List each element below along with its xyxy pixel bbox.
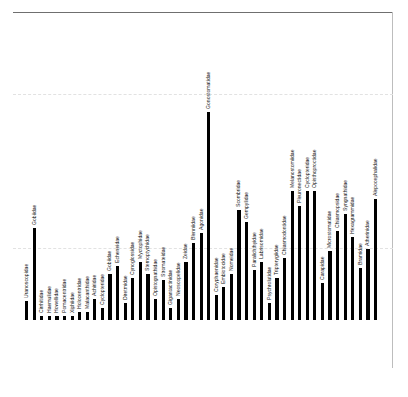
bar — [344, 214, 347, 320]
bar — [351, 237, 354, 320]
bar — [108, 274, 111, 320]
bar-group: Alepocephalidae — [371, 12, 381, 368]
bar — [328, 251, 331, 320]
bar — [169, 308, 172, 320]
bar — [192, 243, 195, 320]
bar — [146, 274, 149, 320]
bar — [131, 278, 134, 320]
bar — [298, 206, 301, 320]
bar — [124, 303, 127, 320]
bar — [93, 299, 96, 320]
bar — [63, 316, 66, 320]
bar — [321, 283, 324, 320]
bar — [71, 316, 74, 320]
bar — [184, 262, 187, 320]
bar — [291, 191, 294, 320]
bar — [200, 233, 203, 320]
bar-label: Alepocephalidae — [373, 159, 378, 197]
bar — [78, 312, 81, 320]
bar — [306, 191, 309, 320]
bar — [101, 308, 104, 320]
bar — [268, 303, 271, 320]
bar — [260, 262, 263, 320]
bar — [48, 316, 51, 320]
bar — [275, 278, 278, 320]
bar — [237, 210, 240, 320]
bar — [154, 299, 157, 320]
bar — [40, 316, 43, 320]
bar — [222, 287, 225, 320]
bar — [215, 295, 218, 320]
bar — [139, 262, 142, 320]
bar — [55, 316, 58, 320]
bar — [116, 266, 119, 320]
chart-figure: UranoscopidaeGobiidaeCirrhitidaeHaemulid… — [0, 0, 408, 397]
bar — [374, 199, 377, 320]
bar — [313, 191, 316, 320]
bar — [336, 231, 339, 320]
bar — [245, 222, 248, 320]
bar — [253, 270, 256, 320]
bar — [230, 274, 233, 320]
bar — [207, 112, 210, 320]
bar — [283, 258, 286, 320]
plot-area: UranoscopidaeGobiidaeCirrhitidaeHaemulid… — [13, 12, 393, 368]
bar — [177, 299, 180, 320]
bar — [366, 249, 369, 320]
bar — [25, 301, 28, 320]
bar — [162, 280, 165, 320]
bar — [86, 312, 89, 320]
bar — [359, 268, 362, 320]
bar — [33, 228, 36, 320]
